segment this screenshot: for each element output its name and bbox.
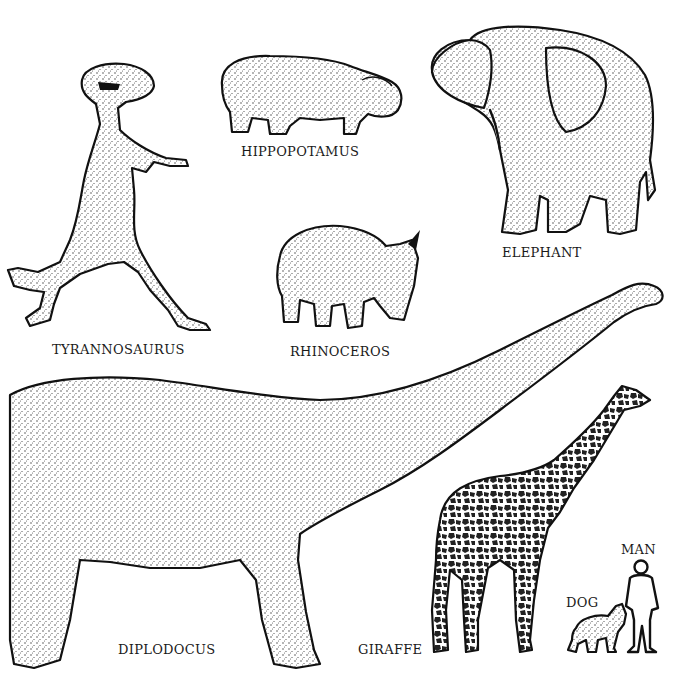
label-diplodocus: DIPLODOCUS (118, 642, 216, 657)
label-rhinoceros: RHINOCEROS (290, 344, 390, 359)
hippopotamus-drawing (222, 56, 402, 134)
rhinoceros-drawing (277, 226, 420, 328)
label-tyrannosaurus: TYRANNOSAURUS (52, 342, 185, 357)
label-man: MAN (621, 542, 656, 557)
label-elephant: ELEPHANT (502, 245, 582, 260)
label-giraffe: GIRAFFE (358, 642, 422, 657)
illustration-canvas: HIPPOPOTAMUS ELEPHANT TYRANNOSAURUS RHIN… (0, 0, 689, 694)
elephant-drawing (432, 27, 655, 234)
tyrannosaurus-drawing (8, 64, 210, 330)
man-drawing (626, 561, 658, 653)
label-dog: DOG (566, 595, 598, 610)
label-hippopotamus: HIPPOPOTAMUS (241, 144, 359, 159)
dog-drawing (568, 604, 626, 652)
